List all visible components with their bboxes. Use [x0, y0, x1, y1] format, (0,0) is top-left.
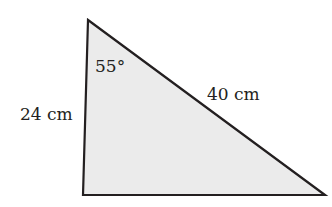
triangle-diagram: 55° 24 cm 40 cm — [0, 0, 332, 207]
triangle — [83, 20, 325, 195]
angle-label-top: 55° — [95, 56, 125, 76]
side-label-left: 24 cm — [20, 104, 73, 124]
side-label-hypotenuse: 40 cm — [207, 84, 260, 104]
